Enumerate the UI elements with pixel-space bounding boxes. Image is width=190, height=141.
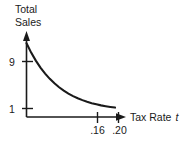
chart-svg: Total Sales 9 1 .16 .20 Tax Ratet: [0, 0, 190, 141]
total-sales-vs-tax-rate-figure: Total Sales 9 1 .16 .20 Tax Ratet: [0, 0, 190, 141]
x-tick-label-16: .16: [90, 124, 105, 136]
x-tick-label-20: .20: [112, 124, 127, 136]
total-sales-decay-curve: [27, 43, 115, 107]
y-tick-label-9: 9: [9, 56, 15, 68]
y-axis-title-line1: Total: [15, 3, 37, 15]
x-axis-label-variable: t: [175, 111, 179, 123]
y-tick-label-1: 1: [9, 103, 15, 115]
x-axis-arrowhead: [116, 113, 126, 121]
x-axis-label-text: Tax Rate: [130, 111, 172, 123]
y-axis-title-line2: Sales: [15, 16, 41, 28]
y-axis-arrowhead: [23, 31, 30, 41]
x-axis-label: Tax Ratet: [130, 111, 179, 123]
